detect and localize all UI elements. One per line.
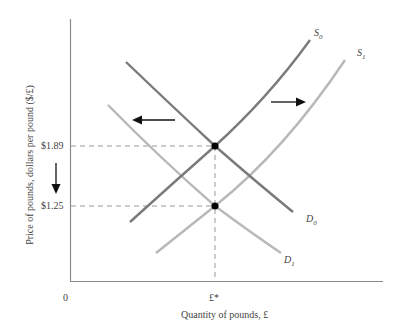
origin-label: 0 (63, 293, 68, 303)
equilibrium-point-initial (211, 142, 218, 149)
supply-shift-arrow-right-icon (271, 98, 306, 107)
equilibrium-point-new (211, 202, 218, 209)
price-tick-low: $1.25 (41, 201, 64, 211)
demand-curve-d0 (126, 62, 293, 212)
supply-demand-chart (0, 0, 401, 331)
y-axis-label: Price of pounds, dollars per pound ($/£) (24, 85, 35, 245)
quantity-tick-star: £* (209, 293, 219, 303)
price-fall-arrow-down-icon (52, 163, 61, 194)
label-s1: S1 (357, 48, 366, 61)
price-tick-high: $1.89 (41, 141, 64, 151)
label-s0: S0 (314, 28, 323, 41)
demand-shift-arrow-left-icon (132, 116, 175, 125)
x-axis-label: Quantity of pounds, £ (181, 310, 268, 320)
label-d0: D0 (306, 214, 317, 227)
supply-curve-s0 (130, 40, 310, 222)
label-d1: D1 (284, 255, 295, 268)
